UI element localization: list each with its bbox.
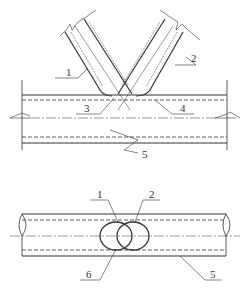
- chord: [10, 80, 240, 150]
- label-6: 6: [86, 268, 92, 280]
- label-5-plan: 5: [210, 268, 216, 280]
- label-3: 3: [84, 102, 90, 114]
- label-1-top: 1: [66, 66, 72, 78]
- label-2-plan: 2: [149, 188, 155, 200]
- k-joint-diagram: 1 2 3 4 5 1 2 6 5: [0, 0, 248, 296]
- label-1-plan: 1: [97, 188, 103, 200]
- leaders: [55, 57, 196, 153]
- label-5-top: 5: [142, 148, 148, 160]
- label-4: 4: [180, 102, 186, 114]
- label-2-top: 2: [191, 52, 197, 64]
- elevation-view: [10, 10, 240, 153]
- plan-view: [10, 200, 240, 280]
- chord-plan: [10, 214, 240, 256]
